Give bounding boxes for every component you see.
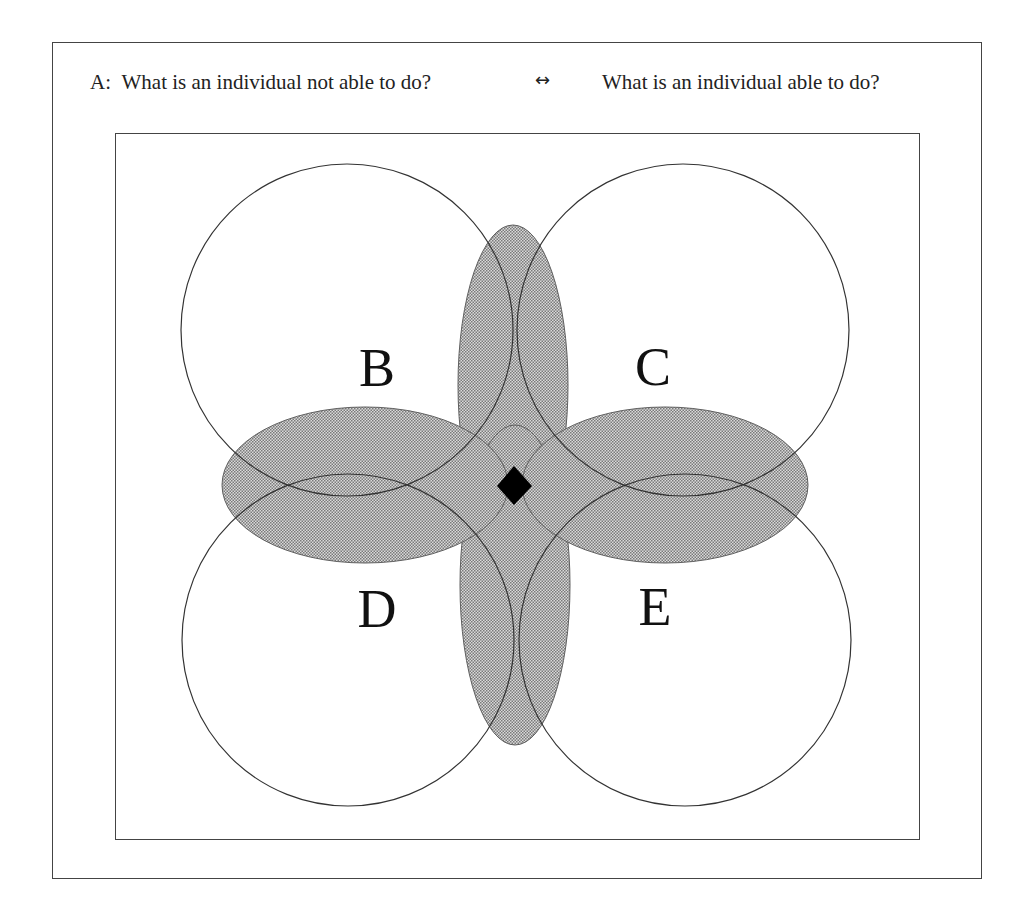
lens-b-d — [222, 407, 508, 563]
label-c: C — [635, 340, 671, 394]
label-d: D — [358, 582, 397, 636]
lens-c-e — [522, 407, 808, 563]
label-b: B — [359, 341, 395, 395]
venn-diagram — [0, 0, 1023, 914]
label-e: E — [639, 580, 672, 634]
